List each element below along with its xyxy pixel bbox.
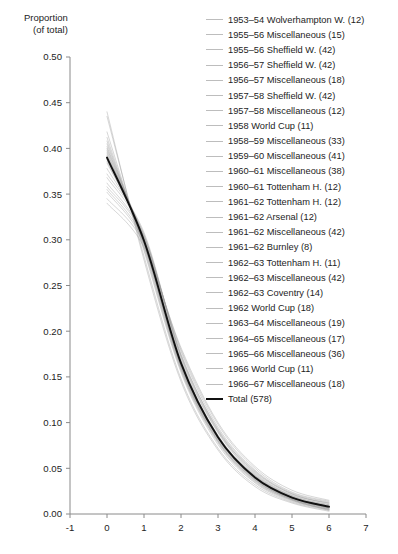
legend-item[interactable]: 1966–67 Miscellaneous (18): [206, 377, 398, 392]
legend-item[interactable]: 1953–54 Wolverhampton W. (12): [206, 12, 398, 27]
y-tick-label: 0.35: [43, 189, 62, 200]
legend-item[interactable]: Total (578): [206, 392, 398, 407]
legend-swatch: [206, 384, 223, 385]
y-tick-label: 0.40: [43, 143, 62, 154]
x-tick-label: -1: [66, 522, 75, 533]
x-tick-label: 4: [252, 522, 258, 533]
legend-label: 1961–62 Tottenham H. (12): [228, 197, 341, 207]
legend-swatch: [206, 80, 223, 81]
legend-swatch: [206, 49, 223, 50]
legend-swatch: [206, 141, 223, 142]
legend-swatch: [206, 308, 223, 309]
legend-swatch: [206, 262, 223, 263]
legend-label: 1955–56 Miscellaneous (15): [228, 30, 345, 40]
legend-swatch: [206, 156, 223, 157]
legend-item[interactable]: 1961–62 Burnley (8): [206, 240, 398, 255]
x-tick-label: 6: [326, 522, 331, 533]
chart-figure: Proportion (of total) 0.000.050.100.150.…: [0, 0, 398, 554]
legend-swatch: [206, 19, 223, 20]
legend-label: 1958–59 Miscellaneous (33): [228, 136, 345, 146]
legend-item[interactable]: 1961–62 Arsenal (12): [206, 209, 398, 224]
legend-swatch: [206, 247, 223, 248]
legend-item[interactable]: 1960–61 Tottenham H. (12): [206, 179, 398, 194]
y-tick-label: 0.30: [43, 234, 62, 245]
legend-swatch: [206, 110, 223, 111]
legend-label: 1962–63 Tottenham H. (11): [228, 258, 340, 268]
legend-swatch: [206, 368, 223, 369]
legend-swatch: [206, 292, 223, 293]
legend-item[interactable]: 1966 World Cup (11): [206, 361, 398, 376]
legend-item[interactable]: 1963–64 Miscellaneous (19): [206, 316, 398, 331]
legend-swatch: [206, 201, 223, 202]
y-tick-label: 0.00: [43, 508, 62, 519]
legend-label: 1956–57 Sheffield W. (42): [228, 60, 335, 70]
legend-swatch: [206, 217, 223, 218]
legend-label: Total (578): [228, 394, 272, 404]
legend-item[interactable]: 1956–57 Miscellaneous (18): [206, 73, 398, 88]
legend-item[interactable]: 1958–59 Miscellaneous (33): [206, 134, 398, 149]
legend-label: 1966–67 Miscellaneous (18): [228, 379, 345, 389]
legend-swatch: [206, 95, 223, 96]
legend-label: 1965–66 Miscellaneous (36): [228, 349, 345, 359]
legend-item[interactable]: 1955–56 Sheffield W. (42): [206, 42, 398, 57]
x-tick-label: 3: [215, 522, 220, 533]
legend-swatch: [206, 338, 223, 339]
legend-label: 1960–61 Miscellaneous (38): [228, 166, 345, 176]
y-tick-label: 0.10: [43, 417, 62, 428]
legend-label: 1955–56 Sheffield W. (42): [228, 45, 335, 55]
y-tick-label: 0.45: [43, 97, 62, 108]
legend: 1953–54 Wolverhampton W. (12)1955–56 Mis…: [206, 12, 398, 407]
legend-label: 1957–58 Miscellaneous (12): [228, 106, 345, 116]
legend-swatch: [206, 186, 223, 187]
y-tick-label: 0.05: [43, 463, 62, 474]
legend-label: 1961–62 Burnley (8): [228, 242, 312, 252]
legend-swatch: [206, 65, 223, 66]
legend-label: 1961–62 Arsenal (12): [228, 212, 317, 222]
legend-swatch: [206, 125, 223, 126]
x-tick-label: 5: [289, 522, 294, 533]
legend-item[interactable]: 1959–60 Miscellaneous (41): [206, 149, 398, 164]
legend-label: 1961–62 Miscellaneous (42): [228, 227, 345, 237]
legend-item[interactable]: 1958 World Cup (11): [206, 118, 398, 133]
legend-label: 1963–64 Miscellaneous (19): [228, 318, 345, 328]
legend-item[interactable]: 1962–63 Coventry (14): [206, 285, 398, 300]
y-tick-label: 0.50: [43, 51, 62, 62]
legend-swatch: [206, 171, 223, 172]
legend-item[interactable]: 1965–66 Miscellaneous (36): [206, 346, 398, 361]
legend-label: 1956–57 Miscellaneous (18): [228, 75, 345, 85]
legend-item[interactable]: 1964–65 Miscellaneous (17): [206, 331, 398, 346]
legend-swatch: [206, 34, 223, 35]
y-tick-label: 0.20: [43, 326, 62, 337]
y-tick-label: 0.15: [43, 371, 62, 382]
legend-item[interactable]: 1962–63 Miscellaneous (42): [206, 270, 398, 285]
x-axis-ticks: -101234567: [66, 514, 369, 533]
legend-item[interactable]: 1955–56 Miscellaneous (15): [206, 27, 398, 42]
legend-item[interactable]: 1960–61 Miscellaneous (38): [206, 164, 398, 179]
legend-label: 1962–63 Miscellaneous (42): [228, 273, 345, 283]
legend-label: 1966 World Cup (11): [228, 364, 313, 374]
legend-item[interactable]: 1956–57 Sheffield W. (42): [206, 58, 398, 73]
legend-item[interactable]: 1961–62 Tottenham H. (12): [206, 194, 398, 209]
legend-item[interactable]: 1962–63 Tottenham H. (11): [206, 255, 398, 270]
legend-label: 1962 World Cup (18): [228, 303, 314, 313]
legend-swatch: [206, 353, 223, 354]
legend-item[interactable]: 1961–62 Miscellaneous (42): [206, 225, 398, 240]
legend-label: 1958 World Cup (11): [228, 121, 313, 131]
y-tick-label: 0.25: [43, 280, 62, 291]
x-tick-label: 0: [104, 522, 109, 533]
legend-item[interactable]: 1962 World Cup (18): [206, 301, 398, 316]
legend-label: 1959–60 Miscellaneous (41): [228, 151, 345, 161]
x-tick-label: 7: [363, 522, 368, 533]
legend-label: 1960–61 Tottenham H. (12): [228, 182, 341, 192]
x-tick-label: 1: [141, 522, 146, 533]
legend-swatch: [206, 323, 223, 324]
legend-label: 1953–54 Wolverhampton W. (12): [228, 15, 364, 25]
legend-item[interactable]: 1957–58 Miscellaneous (12): [206, 103, 398, 118]
x-tick-label: 2: [178, 522, 183, 533]
y-axis-ticks: 0.000.050.100.150.200.250.300.350.400.45…: [43, 51, 70, 519]
legend-swatch: [206, 232, 223, 233]
legend-label: 1964–65 Miscellaneous (17): [228, 334, 345, 344]
legend-swatch: [206, 277, 223, 278]
legend-item[interactable]: 1957–58 Sheffield W. (42): [206, 88, 398, 103]
legend-label: 1962–63 Coventry (14): [228, 288, 323, 298]
